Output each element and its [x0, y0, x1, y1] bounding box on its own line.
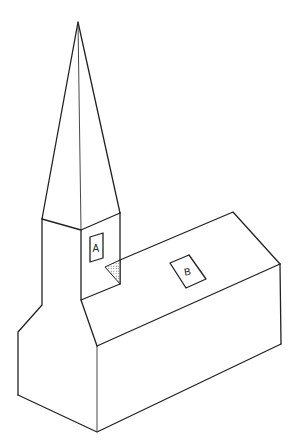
label-a: A: [93, 243, 100, 254]
window-a: A: [90, 233, 103, 262]
label-b: B: [183, 266, 192, 278]
church-diagram: A B: [0, 0, 298, 447]
spire: [42, 22, 120, 230]
window-b: B: [170, 255, 206, 288]
tower: [18, 213, 120, 395]
hatched-junction: [105, 260, 120, 284]
nave: [18, 212, 281, 432]
